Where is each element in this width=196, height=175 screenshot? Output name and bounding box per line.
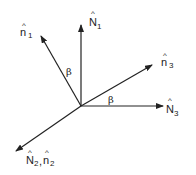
label-N3: ^ N 3 <box>166 96 179 118</box>
vector-N2-n2-arrow <box>16 106 81 151</box>
svg-text:N: N <box>89 16 97 28</box>
svg-text:n: n <box>43 154 49 166</box>
svg-text:n: n <box>161 56 167 68</box>
label-N2-n2: ^ N 2 , ^ n 2 <box>26 148 55 168</box>
vector-n1-arrow <box>41 36 81 106</box>
svg-text:n: n <box>20 26 26 38</box>
svg-text:2: 2 <box>50 159 55 168</box>
svg-text:1: 1 <box>28 31 33 40</box>
vector-n3-arrow <box>81 65 152 106</box>
svg-text:3: 3 <box>169 61 174 70</box>
svg-text:,: , <box>39 155 42 167</box>
svg-text:N: N <box>26 154 34 166</box>
angle-beta-upper: β <box>66 66 72 77</box>
svg-text:N: N <box>166 103 174 115</box>
angle-beta-lower: β <box>108 94 114 105</box>
svg-text:3: 3 <box>174 109 179 118</box>
svg-text:1: 1 <box>97 22 102 31</box>
label-n3: ^ n 3 <box>161 51 174 70</box>
label-n1: ^ n 1 <box>20 21 33 40</box>
label-N1: ^ N 1 <box>89 9 102 31</box>
vector-diagram: ^ N 1 ^ n 1 ^ n 3 ^ N 3 ^ N 2 , ^ n 2 β … <box>0 0 196 175</box>
